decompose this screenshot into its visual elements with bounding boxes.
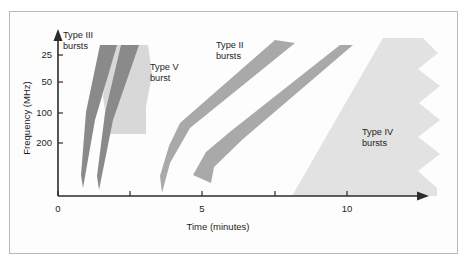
annotation-type-ii: Type II bursts — [216, 40, 244, 61]
y-tick-label-100: 100 — [36, 107, 52, 118]
figure-root: 25 50 100 200 Frequency (MHz) 0 5 10 Tim… — [0, 0, 469, 266]
x-tick-label-0: 0 — [55, 203, 60, 214]
annotation-type-iii-line2: bursts — [63, 41, 88, 51]
annotation-type-v: Type V burst — [150, 62, 179, 83]
x-axis: 0 5 10 Time (minutes) — [55, 191, 429, 232]
x-tick-label-5: 5 — [199, 203, 204, 214]
y-tick-label-200: 200 — [36, 137, 52, 148]
annotation-type-ii-line1: Type II — [216, 40, 244, 50]
x-axis-title: Time (minutes) — [187, 221, 250, 232]
annotation-type-iii: Type III bursts — [63, 30, 93, 51]
x-tick-label-10: 10 — [342, 203, 353, 214]
annotation-type-iv-line2: bursts — [362, 138, 387, 148]
y-tick-label-25: 25 — [41, 49, 52, 60]
series-type-ii-band-1 — [160, 40, 295, 193]
y-tick-label-50: 50 — [41, 76, 52, 87]
annotation-type-iii-line1: Type III — [63, 30, 93, 40]
y-axis-arrowhead — [54, 29, 63, 41]
burst-spectrogram-chart: 25 50 100 200 Frequency (MHz) 0 5 10 Tim… — [0, 0, 469, 266]
annotation-type-v-line1: Type V — [150, 62, 179, 72]
y-axis: 25 50 100 200 Frequency (MHz) — [21, 29, 63, 196]
annotation-type-ii-line2: bursts — [216, 51, 241, 61]
annotation-type-iv-line1: Type IV — [362, 127, 394, 137]
series-type-iv-bursts — [292, 38, 440, 196]
annotation-type-v-line2: burst — [150, 73, 171, 83]
y-axis-title: Frequency (MHz) — [21, 81, 32, 154]
